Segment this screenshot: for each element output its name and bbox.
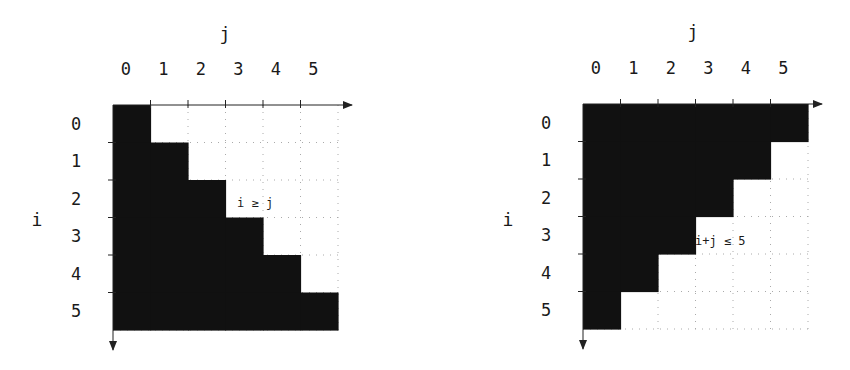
filled-cell [696,142,734,180]
filled-cell [151,218,189,256]
filled-cell [151,255,189,293]
filled-cell [696,104,734,142]
column-label: 4 [271,59,281,79]
row-label: 3 [541,225,551,245]
filled-cell [658,142,696,180]
column-label: 5 [778,58,788,78]
filled-cell [151,143,189,181]
row-label: 2 [541,188,551,208]
x-axis-label: j [688,21,699,42]
filled-cell [188,293,226,331]
row-label: 1 [541,150,551,170]
filled-cell [658,217,696,255]
filled-cell [583,104,621,142]
filled-cell [188,180,226,218]
column-label: 3 [703,58,713,78]
column-labels: 012345 [121,59,319,79]
filled-cell [113,180,151,218]
filled-cell [301,293,339,331]
filled-cell [621,217,659,255]
row-label: 5 [541,300,551,320]
filled-cell [113,218,151,256]
filled-region [113,105,339,331]
condition-label: i+j ≤ 5 [695,234,746,248]
filled-cell [621,142,659,180]
filled-cell [771,104,809,142]
row-label: 5 [71,301,81,321]
filled-cell [226,293,264,331]
row-labels: 012345 [71,114,81,322]
column-label: 0 [121,59,131,79]
filled-cell [226,255,264,293]
filled-cell [113,143,151,181]
y-axis-label: i [503,209,514,230]
y-axis-label: i [32,209,43,230]
row-labels: 012345 [541,113,551,321]
column-label: 4 [741,58,751,78]
filled-cell [263,255,301,293]
filled-cell [733,104,771,142]
diagram-canvas: j i 012345 012345 i ≥ j j i 012345 01234… [0,0,850,370]
filled-cell [583,254,621,292]
panel-lower-triangle: j i 012345 012345 i ≥ j [32,23,352,350]
row-label: 4 [71,264,81,284]
column-label: 5 [308,59,318,79]
panel-anti-triangle: j i 012345 012345 i+j ≤ 5 [503,21,822,349]
filled-cell [113,105,151,143]
filled-cell [188,255,226,293]
filled-cell [188,218,226,256]
x-axis-label: j [220,23,231,44]
row-label: 3 [71,226,81,246]
filled-cell [113,255,151,293]
column-label: 3 [233,59,243,79]
filled-cell [621,254,659,292]
column-label: 1 [628,58,638,78]
column-label: 2 [196,59,206,79]
filled-cell [151,293,189,331]
column-label: 1 [158,59,168,79]
filled-cell [696,179,734,217]
filled-cell [583,292,621,330]
row-label: 0 [71,114,81,134]
filled-cell [113,293,151,331]
filled-region [583,104,809,330]
filled-cell [733,142,771,180]
column-label: 0 [591,58,601,78]
filled-cell [151,180,189,218]
filled-cell [621,179,659,217]
condition-label: i ≥ j [237,196,273,210]
column-labels: 012345 [591,58,789,78]
row-label: 1 [71,151,81,171]
filled-cell [226,218,264,256]
filled-cell [583,142,621,180]
filled-cell [263,293,301,331]
filled-cell [583,217,621,255]
filled-cell [658,179,696,217]
row-label: 2 [71,189,81,209]
filled-cell [658,104,696,142]
column-label: 2 [666,58,676,78]
row-label: 0 [541,113,551,133]
filled-cell [583,179,621,217]
filled-cell [621,104,659,142]
row-label: 4 [541,263,551,283]
